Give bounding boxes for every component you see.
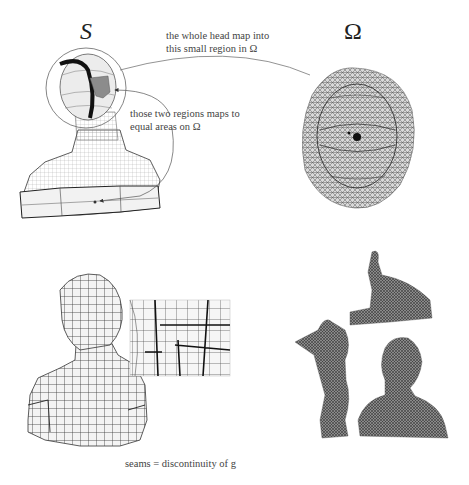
- chart-piece-top: [350, 251, 432, 325]
- seam-inset: [130, 300, 230, 376]
- figure-canvas: [0, 0, 469, 485]
- checkered-bust: [28, 274, 147, 446]
- bust-base-band: [20, 186, 160, 218]
- omega-center-point: [353, 133, 361, 141]
- bust-mesh-s: [20, 48, 160, 218]
- base-region-marker: [94, 201, 97, 204]
- head-map-arrow: [120, 56, 310, 75]
- omega-domain-mesh: [302, 68, 414, 208]
- checkered-torso: [28, 340, 147, 446]
- atlas-charts: [295, 251, 448, 438]
- checkered-head: [60, 274, 122, 350]
- chart-piece-left: [295, 320, 349, 438]
- chart-piece-right: [358, 337, 448, 438]
